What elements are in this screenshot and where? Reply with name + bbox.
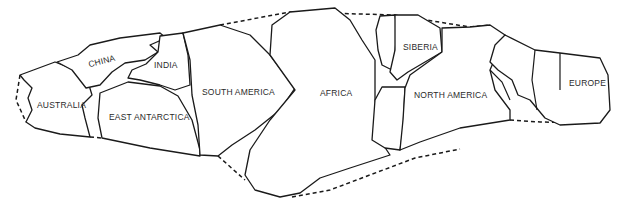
label-india: INDIA <box>154 60 178 70</box>
label-africa: AFRICA <box>320 88 352 98</box>
supercontinent-map <box>0 0 635 211</box>
label-east-antarctica: EAST ANTARCTICA <box>109 112 190 122</box>
label-europe: EUROPE <box>569 78 606 88</box>
region-kazakhstan-block <box>372 87 405 150</box>
label-south-america: SOUTH AMERICA <box>202 87 275 97</box>
label-siberia: SIBERIA <box>403 42 438 52</box>
label-australia: AUSTRALIA <box>37 100 86 110</box>
label-north-america: NORTH AMERICA <box>414 90 487 100</box>
